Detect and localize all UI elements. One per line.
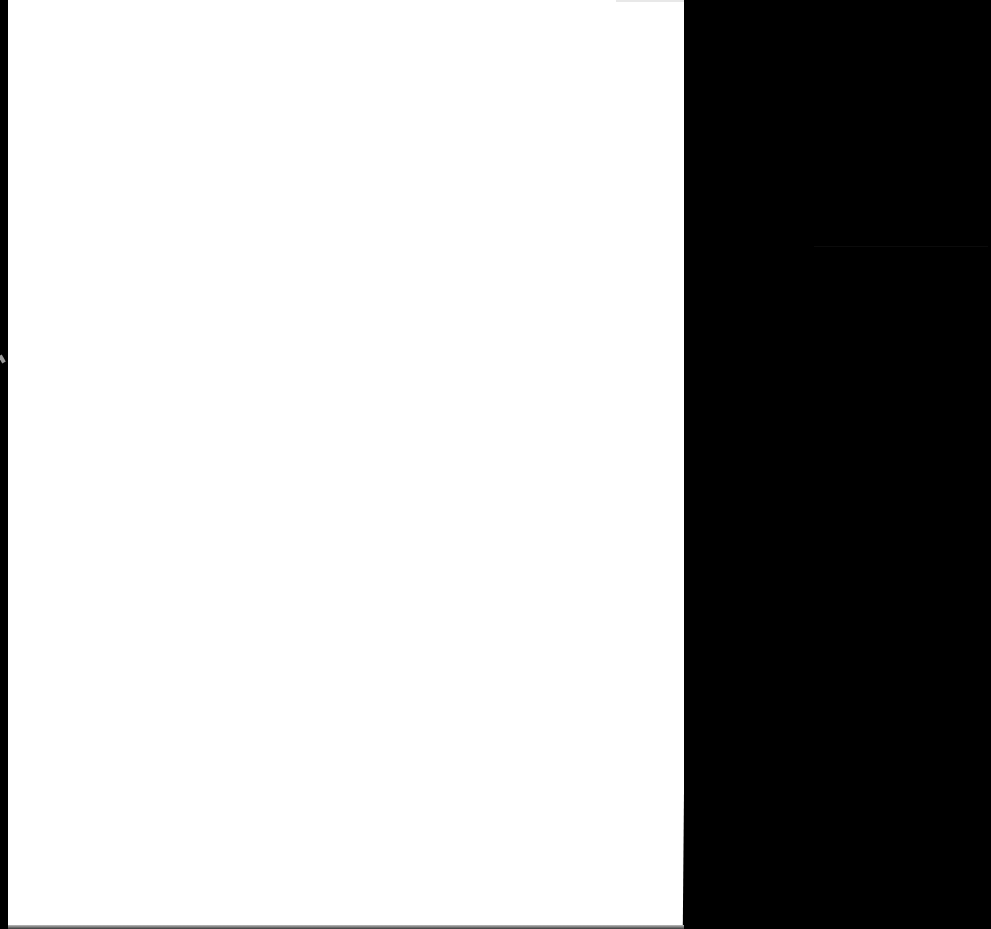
paper-top-edge — [616, 0, 691, 2]
scanned-image — [0, 0, 991, 929]
background-faint-line — [814, 246, 988, 247]
blank-paper-sheet — [8, 0, 691, 926]
scanner-background — [684, 0, 991, 929]
scan-left-border — [0, 0, 8, 929]
paper-bottom-edge — [8, 925, 684, 929]
